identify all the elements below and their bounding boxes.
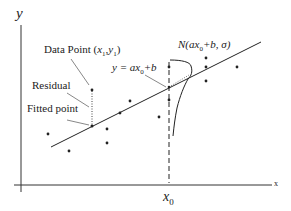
data-point <box>205 57 208 60</box>
y-axis-label: y <box>16 6 23 21</box>
data-point-arrow <box>71 59 89 85</box>
data-point <box>168 66 171 69</box>
data-point <box>236 66 239 69</box>
equation-arrow <box>145 75 166 87</box>
mean-dotted-line <box>169 75 189 87</box>
fitted-point-arrow <box>67 120 89 125</box>
data-point <box>68 150 71 153</box>
data-point <box>205 80 208 83</box>
data-point <box>158 116 161 119</box>
fitted-point-label: Fitted point <box>27 103 78 114</box>
data-point <box>168 99 171 102</box>
fitted-point <box>91 125 94 128</box>
equation-label: y = ax0+b <box>112 62 157 76</box>
line-point-x0 <box>168 86 171 89</box>
x-axis-label: x <box>274 180 278 188</box>
residual-label: Residual <box>32 80 71 91</box>
data-point <box>129 100 132 103</box>
data-point <box>47 133 50 136</box>
distribution-label: N(ax0+b, σ) <box>178 39 230 53</box>
x0-label: x0 <box>163 190 174 207</box>
data-point <box>91 89 94 92</box>
data-point <box>119 112 122 115</box>
gaussian-curve <box>170 60 192 136</box>
data-point <box>106 142 109 145</box>
data-point-label: Data Point (x1,y1) <box>44 44 120 58</box>
data-point <box>205 66 208 69</box>
data-point <box>106 128 109 131</box>
